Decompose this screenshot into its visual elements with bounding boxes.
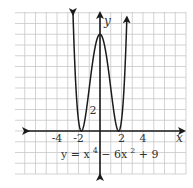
y-axis-label: y [103, 14, 111, 28]
x-tick-label: -2 [73, 132, 84, 145]
equation-rhs: + 9 [135, 148, 158, 161]
x-tick-label: 4 [140, 132, 147, 145]
y-tick-label: 2 [90, 104, 97, 117]
x-tick-label: -4 [52, 132, 63, 145]
function-graph: -4-2242 x y y = x4 − 6x2 + 9 [0, 0, 193, 188]
x-axis-label: x [176, 131, 183, 145]
equation-mid: − 6x [98, 148, 128, 161]
x-tick-label: 2 [118, 132, 125, 145]
equation-label: y = x4 − 6x2 + 9 [60, 146, 158, 161]
equation-lhs: y = x [60, 148, 90, 161]
